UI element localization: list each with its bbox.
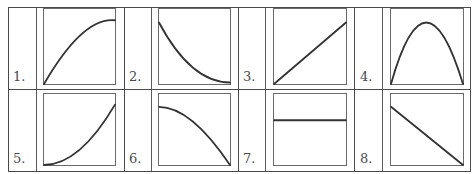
graph-label: 8. (360, 151, 372, 166)
label-divider (151, 8, 152, 89)
graph-plot (43, 8, 116, 85)
graph-curve (274, 23, 346, 85)
graph-canvas (273, 93, 347, 166)
graph-label: 2. (129, 69, 141, 84)
label-divider (36, 8, 37, 89)
graph-plot (158, 8, 231, 85)
label-divider (265, 8, 266, 89)
label-divider (151, 90, 152, 171)
graph-label: 7. (243, 151, 255, 166)
graph-plot (273, 93, 347, 166)
graph-plot (390, 93, 464, 166)
graph-grid: 1. 2. 3. 4. 5. 6. 7. 8. (8, 7, 471, 172)
graph-cell-1: 1. (9, 8, 124, 89)
graph-cell-6: 6. (124, 90, 238, 171)
graph-cell-4: 4. (354, 8, 471, 89)
graph-canvas (390, 93, 464, 166)
graph-cell-8: 8. (354, 90, 471, 171)
graph-canvas (273, 8, 347, 85)
graph-curve (44, 20, 115, 84)
graph-curve (44, 105, 115, 165)
graph-label: 4. (360, 69, 372, 84)
graph-plot (273, 8, 347, 85)
graph-cell-3: 3. (238, 8, 354, 89)
graph-cell-2: 2. (124, 8, 238, 89)
graph-curve (391, 107, 463, 165)
graph-canvas (390, 8, 464, 85)
label-divider (265, 90, 266, 171)
graph-canvas (158, 8, 231, 85)
graph-cell-7: 7. (238, 90, 354, 171)
graph-curve (159, 23, 230, 83)
graph-curve (391, 23, 463, 85)
graph-label: 1. (13, 69, 25, 84)
label-divider (382, 90, 383, 171)
label-divider (382, 8, 383, 89)
graph-canvas (43, 8, 116, 85)
graph-canvas (158, 93, 231, 166)
graph-plot (43, 93, 116, 166)
graph-label: 6. (129, 151, 141, 166)
label-divider (36, 90, 37, 171)
graph-plot (158, 93, 231, 166)
graph-cell-5: 5. (9, 90, 124, 171)
graph-curve (159, 107, 230, 165)
graph-label: 5. (13, 151, 25, 166)
graph-canvas (43, 93, 116, 166)
graph-plot (390, 8, 464, 85)
graph-label: 3. (243, 69, 255, 84)
